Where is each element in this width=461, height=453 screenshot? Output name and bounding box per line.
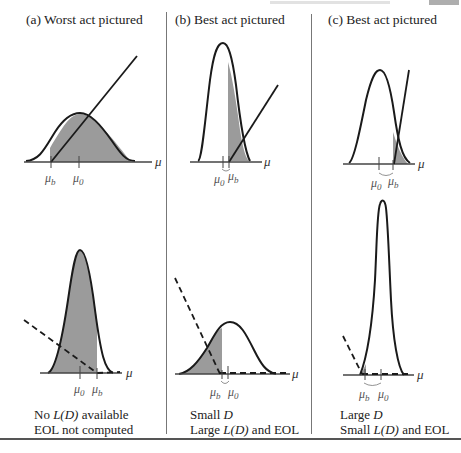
panel-a-caption-line1: No L(D) available xyxy=(34,407,133,422)
panel-a-top-label-mu0: μ0 xyxy=(72,171,84,187)
panel-c-top-label-mu0: μ0 xyxy=(370,176,382,192)
panel-c-caption-line1: Large D xyxy=(340,407,449,422)
panel-a-caption: No L(D) available EOL not computed xyxy=(34,407,133,437)
panel-c-bottom-loss-line xyxy=(343,336,362,374)
panel-c-bottom-density-curve xyxy=(360,201,404,375)
panel-a-bottom-label-mub: μb xyxy=(91,382,103,398)
panel-c-top-label-mub: μb xyxy=(387,174,399,190)
figure-canvas: μ μb μ0 μ μ0 μb μ μ0 μb μ xyxy=(0,0,461,453)
panel-c-bottom-label-mu0: μ0 xyxy=(377,387,389,403)
panel-c-caption-line2: Small L(D) and EOL xyxy=(340,422,449,437)
panel-c-top-plot: μ μ0 μb xyxy=(343,70,425,192)
panel-b-caption: Small D Large L(D) and EOL xyxy=(190,407,299,437)
panel-a-top-plot: μ μb μ0 xyxy=(24,56,162,187)
panel-c-bottom-plot: μ μb μ0 xyxy=(343,201,424,403)
bottom-rule xyxy=(0,438,461,440)
panel-b-bottom-axis-label: μ xyxy=(291,366,299,381)
panel-b-bottom-plot: μ μb μ0 xyxy=(175,278,299,401)
panel-b-top-axis-label: μ xyxy=(263,154,271,169)
panel-b-bottom-loss-line xyxy=(175,278,220,374)
panel-a-caption-line2: EOL not computed xyxy=(34,422,133,437)
panel-b-top-plot: μ μ0 μb xyxy=(190,43,278,188)
panel-a-bottom-plot: μ μ0 μb xyxy=(24,250,133,398)
panel-b-bottom-label-mu0: μ0 xyxy=(227,385,239,401)
panel-b-caption-line2: Large L(D) and EOL xyxy=(190,422,299,437)
panel-b-top-label-mu0: μ0 xyxy=(213,172,225,188)
panel-b-bottom-brace xyxy=(221,381,229,384)
panel-b-top-label-mub: μb xyxy=(227,169,239,185)
panel-a-bottom-label-mu0: μ0 xyxy=(73,382,85,398)
panel-b-caption-line1: Small D xyxy=(190,407,299,422)
panel-c-caption: Large D Small L(D) and EOL xyxy=(340,407,449,437)
panel-c-top-axis-label: μ xyxy=(417,156,425,171)
panel-c-bottom-label-mub: μb xyxy=(358,387,370,403)
panel-b-bottom-label-mub: μb xyxy=(209,385,221,401)
panel-c-bottom-brace xyxy=(364,383,381,386)
panel-a-top-axis-label: μ xyxy=(154,154,162,169)
panel-c-bottom-axis-label: μ xyxy=(416,367,424,382)
panel-a-top-label-mub: μb xyxy=(44,171,56,187)
panel-a-bottom-axis-label: μ xyxy=(125,365,133,380)
